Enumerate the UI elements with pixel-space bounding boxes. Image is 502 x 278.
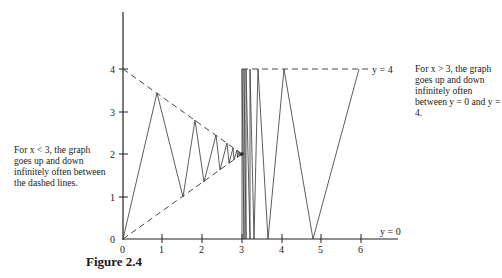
x-tick-labels: 0 1 2 3 4 5 6 (120, 244, 363, 255)
upper-dashed-line (123, 69, 242, 154)
svg-text:2: 2 (199, 244, 204, 255)
figure-plot: 4 3 2 1 0 0 1 2 3 4 5 6 y = 4 y = 0 (0, 0, 502, 278)
svg-text:5: 5 (318, 244, 323, 255)
svg-text:0: 0 (110, 234, 115, 245)
label-y0: y = 0 (380, 226, 401, 237)
svg-text:3: 3 (110, 107, 115, 118)
svg-text:2: 2 (110, 149, 115, 160)
svg-text:1: 1 (159, 244, 164, 255)
y-tick-labels: 4 3 2 1 0 (110, 64, 115, 245)
figure-caption: Figure 2.4 (86, 254, 142, 270)
annotation-left: For x < 3, the graph goes up and down in… (14, 144, 106, 188)
svg-text:4: 4 (279, 244, 284, 255)
graph-left-oscillation (123, 93, 242, 239)
svg-text:1: 1 (110, 192, 115, 203)
annotation-right: For x > 3, the graph goes up and down in… (415, 63, 502, 118)
label-y4: y = 4 (372, 64, 393, 75)
svg-text:6: 6 (358, 244, 363, 255)
svg-text:3: 3 (239, 244, 244, 255)
graph-right-oscillation (242, 69, 359, 239)
svg-text:4: 4 (110, 64, 115, 75)
